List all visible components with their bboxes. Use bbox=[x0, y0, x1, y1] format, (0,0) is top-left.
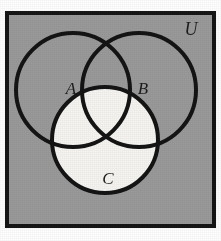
venn-diagram-figure: U A B C bbox=[0, 0, 221, 241]
set-label-a: A bbox=[65, 79, 77, 98]
universal-set-label: U bbox=[185, 19, 199, 39]
venn-diagram-canvas: U A B C bbox=[0, 0, 221, 241]
set-label-b: B bbox=[138, 79, 149, 98]
set-label-c: C bbox=[102, 169, 114, 188]
